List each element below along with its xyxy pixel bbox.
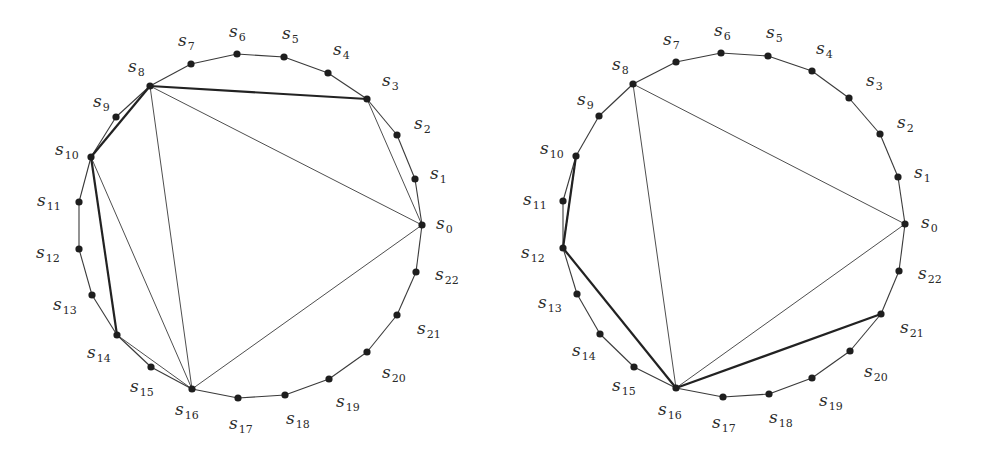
vertex-label-subscript: 10: [65, 149, 79, 162]
vertex-s13: [88, 291, 95, 298]
vertex-label-subscript: 0: [446, 223, 453, 236]
vertex-s9: [112, 113, 119, 120]
vertex-label-subscript: 6: [239, 31, 246, 44]
vertex-label-subscript: 22: [445, 274, 459, 287]
vertex-label-subscript: 1: [924, 172, 931, 185]
vertex-s12: [559, 244, 566, 251]
vertex-label-subscript: 6: [724, 30, 731, 43]
vertex-s13: [573, 290, 580, 297]
vertex-label-subscript: 8: [622, 64, 629, 77]
vertex-label-subscript: 20: [392, 372, 406, 385]
vertex-label-subscript: 16: [668, 409, 682, 422]
vertex-label-subscript: 18: [296, 418, 310, 431]
vertex-label-subscript: 14: [97, 352, 111, 365]
vertex-label-subscript: 12: [46, 252, 60, 265]
vertex-label-subscript: 21: [427, 328, 441, 341]
vertex-label-subscript: 13: [548, 302, 562, 315]
vertex-label-subscript: 13: [63, 304, 77, 317]
vertex-label-subscript: 4: [826, 48, 833, 61]
vertex-label-subscript: 21: [910, 327, 924, 340]
vertex-s17: [719, 393, 726, 400]
vertex-label-subscript: 19: [829, 400, 843, 413]
vertex-s0: [901, 220, 908, 227]
vertex-s8: [146, 82, 153, 89]
vertex-s11: [559, 197, 566, 204]
vertex-label-subscript: 17: [722, 422, 736, 435]
vertex-label-subscript: 2: [907, 122, 914, 135]
vertex-s5: [280, 53, 287, 60]
vertex-s18: [765, 390, 772, 397]
vertex-label-subscript: 14: [582, 350, 596, 363]
vertex-s19: [808, 374, 815, 381]
vertex-s3: [845, 94, 852, 101]
vertex-s5: [764, 52, 771, 59]
vertex-s21: [393, 311, 400, 318]
vertex-label-subscript: 5: [292, 33, 299, 46]
vertex-label-subscript: 1: [440, 173, 447, 186]
vertex-label-subscript: 16: [185, 409, 199, 422]
vertex-label-subscript: 18: [779, 417, 793, 430]
vertex-label-subscript: 19: [346, 401, 360, 414]
vertex-s22: [412, 268, 419, 275]
vertex-label-subscript: 10: [550, 148, 564, 161]
vertex-label-subscript: 9: [103, 101, 110, 114]
vertex-label-subscript: 7: [188, 40, 195, 53]
vertex-label-subscript: 17: [239, 423, 253, 436]
vertex-label-subscript: 0: [931, 222, 938, 235]
vertex-s20: [846, 347, 853, 354]
vertex-s4: [808, 67, 815, 74]
vertex-s2: [393, 131, 400, 138]
vertex-label-subscript: 20: [874, 371, 888, 384]
vertex-s7: [187, 60, 194, 67]
vertex-s1: [411, 175, 418, 182]
vertex-s19: [325, 375, 332, 382]
vertex-s12: [75, 245, 82, 252]
vertex-label-subscript: 5: [776, 32, 783, 45]
vertex-s10: [87, 153, 94, 160]
vertex-s15: [630, 363, 637, 370]
vertex-s14: [596, 330, 603, 337]
vertex-s22: [895, 267, 902, 274]
vertex-label-subscript: 2: [424, 123, 431, 136]
vertex-s1: [894, 173, 901, 180]
vertex-label-subscript: 11: [533, 199, 547, 212]
vertex-s21: [877, 310, 884, 317]
vertex-label-subscript: 22: [928, 273, 942, 286]
vertex-s17: [234, 394, 241, 401]
vertex-s14: [113, 331, 120, 338]
vertex-s7: [672, 58, 679, 65]
vertex-label-subscript: 12: [531, 252, 545, 265]
vertex-s8: [629, 80, 636, 87]
vertex-s20: [363, 348, 370, 355]
vertex-s6: [233, 50, 240, 57]
vertex-label-subscript: 4: [343, 49, 350, 62]
vertex-s16: [188, 385, 195, 392]
vertex-s10: [572, 152, 579, 159]
vertex-s6: [717, 49, 724, 56]
vertex-s16: [672, 384, 679, 391]
vertex-s11: [75, 198, 82, 205]
vertex-label-subscript: 3: [876, 80, 883, 93]
vertex-s2: [876, 130, 883, 137]
vertex-label-subscript: 15: [622, 385, 636, 398]
polygon-triangulation-figure: s0s1s2s3s4s5s6s7s8s9s10s11s12s13s14s15s1…: [0, 0, 982, 454]
vertex-s4: [324, 69, 331, 76]
vertex-label-subscript: 11: [47, 200, 61, 213]
vertex-s18: [281, 391, 288, 398]
vertex-s15: [147, 363, 154, 370]
vertex-s0: [418, 221, 425, 228]
vertex-s3: [363, 95, 370, 102]
vertex-label-subscript: 9: [587, 99, 594, 112]
vertex-label-subscript: 8: [138, 66, 145, 79]
vertex-label-subscript: 3: [392, 80, 399, 93]
vertex-label-subscript: 15: [140, 386, 154, 399]
vertex-label-subscript: 7: [673, 39, 680, 52]
vertex-s9: [595, 112, 602, 119]
